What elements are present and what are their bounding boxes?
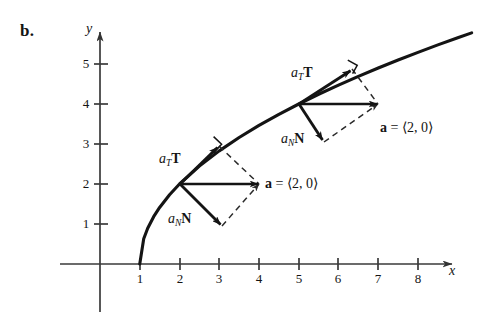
- upper-tangential-arrow: [299, 71, 351, 104]
- diagram-canvas: [0, 0, 489, 325]
- lower-tangential-arrow: [180, 148, 218, 185]
- trajectory-curve: [140, 33, 472, 264]
- y-axis-ticks: [94, 64, 108, 224]
- upper-normal-arrow: [299, 104, 323, 140]
- lower-normal-arrow: [180, 184, 221, 225]
- axis-lines: [60, 32, 452, 312]
- lower-dashed-side-tangential: [219, 146, 259, 184]
- upper-dashed-side-normal: [324, 104, 378, 142]
- figure-panel-b: b. y x 1 2 3 4 5 6 7 8 1 2 3 4 5 aTT aNN…: [0, 0, 489, 325]
- lower-dashed-side-normal: [222, 184, 259, 226]
